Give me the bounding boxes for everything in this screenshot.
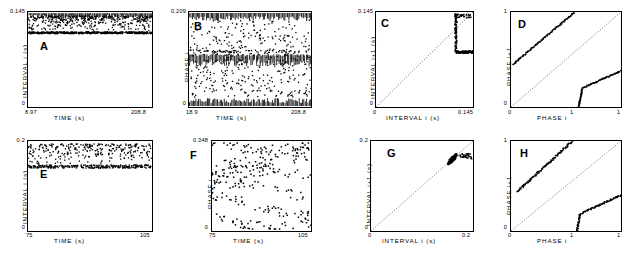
panel-c-xtick-min: 0	[373, 109, 376, 115]
panel-f-ytick-min: 0	[182, 224, 208, 230]
panel-b-xtick-max: 208.8	[291, 109, 306, 115]
panel-e-letter: E	[40, 169, 47, 180]
panel-g-ytick-min: 0	[344, 224, 368, 230]
panel-d-letter: D	[518, 19, 526, 30]
panel-b-plot-area	[188, 11, 312, 108]
panel-g-xtick-max: 0.2	[462, 232, 470, 238]
panel-b-ytick-min: 0	[160, 100, 186, 106]
panel-h-xlabel: PHASE i	[537, 237, 567, 244]
panel-e-xtick-min: 75	[26, 232, 33, 238]
panel-h-letter: H	[520, 148, 528, 159]
panel-f-xtick-min: 75	[209, 232, 216, 238]
panel-a-ylabel: INTERVAL i (s)	[21, 44, 28, 98]
panel-f-plot-area	[211, 140, 312, 232]
panel-c-ytick-min: 0	[348, 100, 373, 106]
panel-e-xtick-max: 105	[140, 232, 150, 238]
panel-b-scatter	[189, 12, 311, 107]
panel-d-xlabel: PHASE i	[537, 114, 567, 121]
panel-f-xtick-max: 105	[298, 232, 308, 238]
panel-b-ylabel: PHASE i	[183, 52, 190, 82]
panel-e-ylabel: INTERVAL i (s)	[21, 170, 28, 224]
panel-d-xtick-max: 1	[617, 109, 620, 115]
panel-d-ytick-min: 0	[489, 100, 507, 106]
panel-f-xlabel: TIME (s)	[233, 237, 264, 244]
panel-d-xtick-min: 0	[508, 109, 511, 115]
panel-f-ytick-max: 0.348	[182, 137, 208, 143]
panel-g-letter: G	[387, 148, 396, 159]
panel-d-plot-area	[510, 11, 622, 108]
panel-d-xtick-mid: 1	[570, 109, 573, 115]
panel-a-letter: A	[40, 41, 48, 52]
panel-c-xtick-max: 0.145	[458, 109, 473, 115]
panel-e-ytick-min: 0	[1, 224, 25, 230]
panel-h-ytick-min: 0	[489, 224, 507, 230]
panel-h-xtick-min: 0	[508, 232, 511, 238]
panel-f-ylabel: PHASE i	[206, 179, 213, 209]
panel-h-xtick-mid: 1	[570, 232, 573, 238]
figure-panel-grid: A INTERVAL i (s) TIME (s) 0.145 0 8.97 2…	[0, 0, 641, 255]
panel-b-xlabel: TIME (s)	[216, 114, 247, 121]
panel-a-xtick-max: 208.8	[131, 109, 146, 115]
panel-e-plot-area	[27, 140, 153, 232]
panel-d-ytick-max: 1	[489, 8, 507, 14]
panel-a-ytick-min: 0	[1, 100, 25, 106]
panel-a-xtick-min: 8.97	[25, 109, 37, 115]
panel-d-ylabel: PHASE i+1	[505, 47, 512, 86]
panel-g-xlabel: INTERVAL i (s)	[382, 237, 436, 244]
panel-g-ylabel: INTERVAL i+1 (s)	[365, 163, 372, 226]
panel-a-xlabel: TIME (s)	[54, 114, 85, 121]
panel-f-letter: F	[190, 150, 197, 161]
panel-a-scatter	[28, 12, 152, 107]
panel-d-identity-line	[511, 12, 621, 107]
panel-a-plot-area	[27, 11, 153, 108]
panel-c-plot-area	[375, 11, 474, 108]
panel-c-identity-line	[376, 12, 473, 107]
panel-g-ytick-max: 0.2	[344, 137, 368, 143]
panel-e-scatter	[28, 141, 152, 231]
panel-c-scatter	[376, 12, 473, 107]
panel-c-ytick-max: 0.145	[348, 8, 373, 14]
panel-g-plot-area	[370, 140, 474, 232]
panel-g-xtick-min: 0	[368, 232, 371, 238]
panel-h-xtick-max: 1	[617, 232, 620, 238]
panel-b-letter: B	[194, 21, 202, 32]
panel-e-ytick-max: 0.2	[1, 137, 25, 143]
panel-f-scatter	[212, 141, 311, 231]
panel-a-ytick-max: 0.145	[1, 8, 25, 14]
panel-c-xlabel: INTERVAL i (s)	[386, 114, 440, 121]
panel-h-ylabel: PHASE i+1	[505, 176, 512, 215]
panel-d-scatter	[511, 12, 621, 107]
panel-e-xlabel: TIME (s)	[54, 237, 85, 244]
panel-h-ytick-max: 1	[489, 137, 507, 143]
panel-b-xtick-min: 18.9	[186, 109, 198, 115]
panel-b-ytick-max: 0.209	[160, 8, 186, 14]
panel-c-ylabel: INTERVAL i+1 (s)	[369, 36, 376, 99]
panel-c-letter: C	[381, 18, 389, 29]
